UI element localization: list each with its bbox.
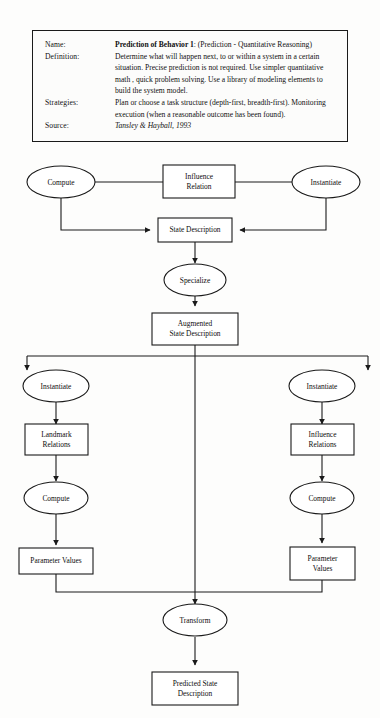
label-parameter-values-left: Parameter Values — [19, 548, 93, 574]
label-instantiate-top-right: Instantiate — [292, 174, 360, 191]
label-transform: Transform — [163, 612, 227, 629]
link-compute-to-state-description — [61, 198, 150, 230]
label-predicted-state-description: Predicted StateDescription — [152, 672, 238, 705]
label-state-description: State Description — [158, 218, 232, 242]
label-compute-left: Compute — [24, 490, 88, 507]
label-influence-relations-right: InfluenceRelations — [291, 424, 354, 455]
label-instantiate-right: Instantiate — [289, 378, 355, 395]
label-compute-top-left: Compute — [27, 174, 95, 191]
page-canvas: Name: Prediction of Behavior 1: (Predict… — [0, 0, 380, 718]
label-compute-right: Compute — [290, 490, 354, 507]
link-instantiate-to-state-description — [240, 198, 326, 230]
label-instantiate-left: Instantiate — [23, 378, 89, 395]
link-parameter-values-right-to-transform — [195, 580, 322, 592]
label-influence-relation-top: InfluenceRelation — [163, 165, 235, 198]
label-augmented-state-description: AugmentedState Description — [152, 313, 238, 345]
flow-diagram — [0, 0, 380, 718]
link-parameter-values-left-to-transform — [56, 574, 195, 592]
label-parameter-values-right: ParameterValues — [290, 547, 355, 580]
label-landmark-relations: LandmarkRelations — [25, 424, 88, 455]
label-specialize: Specialize — [164, 272, 226, 289]
